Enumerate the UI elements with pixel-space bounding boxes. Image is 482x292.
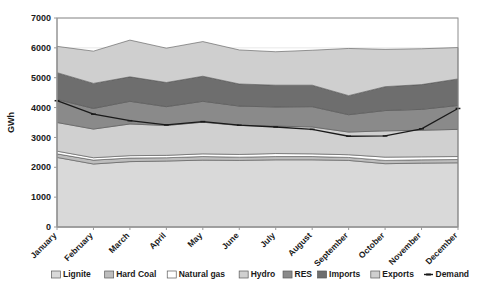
x-tick-label: May bbox=[185, 230, 204, 249]
legend-label: Lignite bbox=[63, 269, 91, 279]
x-tick-label: December bbox=[423, 230, 460, 267]
y-tick-label: 6000 bbox=[31, 43, 51, 53]
legend-swatch bbox=[318, 271, 327, 278]
legend-item-natural-gas[interactable]: Natural gas bbox=[167, 269, 225, 279]
y-tick-label: 5000 bbox=[31, 73, 51, 83]
legend-item-lignite[interactable]: Lignite bbox=[51, 269, 91, 279]
legend-label: Hydro bbox=[251, 269, 276, 279]
legend-label: Natural gas bbox=[179, 269, 226, 279]
y-axis-title: GWh bbox=[6, 112, 16, 133]
legend-label: RES bbox=[295, 269, 313, 279]
y-tick-label: 2000 bbox=[31, 162, 51, 172]
x-tick-label: February bbox=[62, 230, 95, 263]
legend-item-imports[interactable]: Imports bbox=[318, 269, 361, 279]
x-tick-label: July bbox=[258, 230, 277, 249]
legend-item-res[interactable]: RES bbox=[283, 269, 312, 279]
x-tick-label: June bbox=[220, 230, 241, 251]
legend-label: Exports bbox=[382, 269, 414, 279]
stacked-area-chart: 01000200030004000500060007000 JanuaryFeb… bbox=[0, 0, 482, 292]
legend-swatch bbox=[239, 271, 248, 278]
x-tick-label: August bbox=[286, 230, 314, 258]
y-axis-label: GWh bbox=[6, 112, 16, 133]
y-tick-label: 7000 bbox=[31, 13, 51, 23]
x-tick-label: October bbox=[356, 230, 387, 261]
legend-item-hydro[interactable]: Hydro bbox=[239, 269, 275, 279]
y-tick-label: 1000 bbox=[31, 192, 51, 202]
legend-label: Demand bbox=[436, 269, 470, 279]
legend-label: Imports bbox=[329, 269, 360, 279]
legend-item-exports[interactable]: Exports bbox=[371, 269, 414, 279]
area-lignite bbox=[57, 157, 458, 227]
legend-swatch bbox=[51, 271, 60, 278]
legend-swatch bbox=[283, 271, 292, 278]
x-tick-label: September bbox=[312, 230, 351, 269]
legend-swatch bbox=[167, 271, 176, 278]
legend-swatch bbox=[105, 271, 114, 278]
x-axis-ticks: JanuaryFebruaryMarchAprilMayJuneJulyAugu… bbox=[28, 227, 460, 268]
x-tick-label: April bbox=[147, 230, 168, 251]
x-tick-label: March bbox=[107, 230, 132, 255]
legend-item-demand[interactable]: Demand bbox=[424, 269, 469, 279]
x-tick-label: January bbox=[28, 230, 58, 260]
chart-legend: LigniteHard CoalNatural gasHydroRESImpor… bbox=[51, 269, 469, 279]
legend-swatch bbox=[371, 271, 380, 278]
x-tick-label: November bbox=[386, 230, 423, 267]
y-axis-ticks: 01000200030004000500060007000 bbox=[31, 13, 57, 232]
chart-container: 01000200030004000500060007000 JanuaryFeb… bbox=[0, 0, 482, 292]
y-tick-label: 3000 bbox=[31, 133, 51, 143]
legend-item-hard-coal[interactable]: Hard Coal bbox=[105, 269, 157, 279]
y-tick-label: 4000 bbox=[31, 103, 51, 113]
legend-label: Hard Coal bbox=[116, 269, 156, 279]
